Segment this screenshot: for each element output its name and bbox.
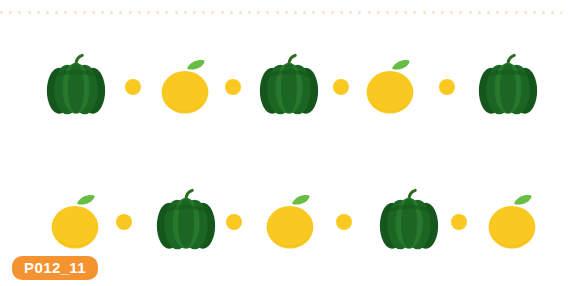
rule-dot — [459, 11, 462, 14]
rule-dot — [92, 11, 95, 14]
rule-dot — [358, 11, 361, 14]
pepper-shape — [155, 189, 217, 256]
rule-dot — [505, 11, 508, 14]
rule-dot — [202, 11, 205, 14]
rule-dot — [322, 11, 325, 14]
rule-dot — [46, 11, 49, 14]
yellow-dot — [333, 79, 349, 95]
rule-dot — [524, 11, 527, 14]
rule-dot — [147, 11, 150, 14]
rule-dot — [156, 11, 159, 14]
pepper-body — [479, 63, 537, 114]
rule-dot — [551, 11, 554, 14]
green-bell-pepper — [258, 54, 320, 121]
pepper-shape — [258, 54, 320, 121]
rule-dot — [533, 11, 536, 14]
citrus-shape — [160, 57, 212, 117]
yellow-dot — [116, 214, 132, 230]
rule-dot — [478, 11, 481, 14]
citrus-leaf-icon — [292, 195, 310, 204]
rule-dot — [423, 11, 426, 14]
rule-dot — [83, 11, 86, 14]
orange-citrus — [50, 192, 102, 252]
orange-citrus — [365, 57, 417, 117]
yellow-dot — [439, 79, 455, 95]
rule-dot — [294, 11, 297, 14]
pepper-body — [260, 63, 318, 114]
top-dotted-rule — [0, 10, 562, 15]
rule-dot — [285, 11, 288, 14]
pepper-shape — [378, 189, 440, 256]
motif-row-1 — [0, 42, 570, 132]
rule-dot — [266, 11, 269, 14]
rule-dot — [450, 11, 453, 14]
citrus-leaf-icon — [77, 195, 95, 204]
rule-dot — [441, 11, 444, 14]
rule-dot — [303, 11, 306, 14]
rule-dot — [0, 11, 3, 14]
rule-dot — [101, 11, 104, 14]
rule-dot — [560, 11, 562, 14]
pepper-body — [380, 198, 438, 249]
rule-dot — [165, 11, 168, 14]
rule-dot — [175, 11, 178, 14]
green-bell-pepper — [477, 54, 539, 121]
rule-dot — [386, 11, 389, 14]
yellow-dot — [225, 79, 241, 95]
rule-dot — [257, 11, 260, 14]
rule-dot — [395, 11, 398, 14]
rule-dot — [542, 11, 545, 14]
rule-dot — [239, 11, 242, 14]
rule-dot — [18, 11, 21, 14]
rule-dot — [221, 11, 224, 14]
rule-dot — [230, 11, 233, 14]
rule-dot — [248, 11, 251, 14]
rule-dot — [469, 11, 472, 14]
green-bell-pepper — [155, 189, 217, 256]
rule-dot — [413, 11, 416, 14]
citrus-leaf-icon — [514, 195, 532, 204]
citrus-shape — [365, 57, 417, 117]
citrus-shape — [487, 192, 539, 252]
pattern-id-badge: P012_11 — [12, 256, 98, 280]
citrus-shape — [50, 192, 102, 252]
rule-dot — [28, 11, 31, 14]
rule-dot — [119, 11, 122, 14]
rule-dot — [276, 11, 279, 14]
rule-dot — [515, 11, 518, 14]
orange-citrus — [487, 192, 539, 252]
orange-citrus — [265, 192, 317, 252]
yellow-dot — [451, 214, 467, 230]
motif-row-2 — [0, 182, 570, 262]
rule-dot — [432, 11, 435, 14]
rule-dot — [340, 11, 343, 14]
pepper-body — [47, 63, 105, 114]
pepper-shape — [45, 54, 107, 121]
rule-dot — [9, 11, 12, 14]
rule-dot — [211, 11, 214, 14]
rule-dot — [55, 11, 58, 14]
rule-dot — [193, 11, 196, 14]
citrus-leaf-icon — [392, 60, 410, 69]
yellow-dot — [336, 214, 352, 230]
rule-dot — [110, 11, 113, 14]
rule-dot — [487, 11, 490, 14]
green-bell-pepper — [378, 189, 440, 256]
rule-dot — [377, 11, 380, 14]
rule-dot — [349, 11, 352, 14]
orange-citrus — [160, 57, 212, 117]
yellow-dot — [125, 79, 141, 95]
rule-dot — [368, 11, 371, 14]
rule-dot — [64, 11, 67, 14]
rule-dot — [312, 11, 315, 14]
rule-dot — [184, 11, 187, 14]
rule-dot — [138, 11, 141, 14]
citrus-leaf-icon — [187, 60, 205, 69]
citrus-shape — [265, 192, 317, 252]
green-bell-pepper — [45, 54, 107, 121]
pepper-shape — [477, 54, 539, 121]
rule-dot — [129, 11, 132, 14]
rule-dot — [331, 11, 334, 14]
rule-dot — [496, 11, 499, 14]
pattern-page: P012_11 — [0, 0, 570, 286]
